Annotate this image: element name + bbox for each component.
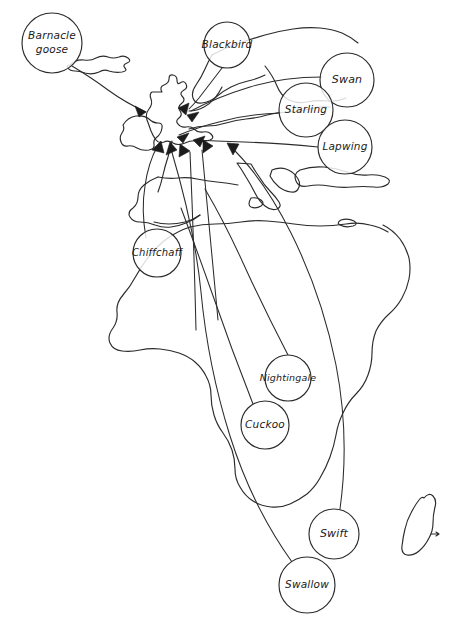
bubble-text-lapwing: Lapwing xyxy=(322,140,367,152)
label-bubble-lapwing[interactable]: Lapwing xyxy=(318,120,372,174)
arrowhead-nightingale xyxy=(203,140,213,153)
map-canvas: BarnaclegooseBlackbirdSwanStarlingLapwin… xyxy=(0,0,460,636)
coastlines xyxy=(67,28,439,556)
coastline-italy xyxy=(237,163,280,210)
label-bubble-nightingale[interactable]: Nightingale xyxy=(260,355,317,401)
bubble-text-cuckoo: Cuckoo xyxy=(245,418,285,430)
route-lapwing xyxy=(195,140,318,147)
label-bubble-chiffchaff[interactable]: Chiffchaff xyxy=(132,229,183,277)
route-barnacle-goose xyxy=(72,66,146,112)
arrowhead-cuckoo xyxy=(179,144,190,157)
bubble-text-chiffchaff: Chiffchaff xyxy=(132,247,183,258)
route-extra-stroke-b xyxy=(202,150,218,320)
route-nightingale xyxy=(205,189,288,355)
route-swallow xyxy=(171,149,292,562)
coastline-north-africa xyxy=(190,221,388,232)
bubble-text-swift: Swift xyxy=(320,527,349,540)
migration-routes xyxy=(72,66,344,562)
label-bubble-barnacle-goose[interactable]: Barnaclegoose xyxy=(22,13,82,73)
route-swift xyxy=(229,145,344,509)
coastline-ireland xyxy=(120,116,162,150)
bubble-text-blackbird: Blackbird xyxy=(202,38,253,50)
bubble-text-nightingale: Nightingale xyxy=(260,372,317,383)
migration-map-figure: BarnaclegooseBlackbirdSwanStarlingLapwin… xyxy=(0,0,460,636)
bubble-text-swallow: Swallow xyxy=(285,578,329,590)
label-bubble-cuckoo[interactable]: Cuckoo xyxy=(241,401,289,449)
route-chiffchaff xyxy=(143,145,158,238)
bubble-text-swan: Swan xyxy=(332,73,363,86)
coastline-europe-inland xyxy=(158,177,238,185)
bubble-text-starling: Starling xyxy=(285,103,327,115)
mozambique-channel-tick xyxy=(431,532,439,536)
label-bubble-swallow[interactable]: Swallow xyxy=(279,557,335,613)
arrowhead-swan xyxy=(187,112,199,122)
coastline-madagascar xyxy=(402,494,436,555)
label-bubble-swift[interactable]: Swift xyxy=(309,509,359,559)
